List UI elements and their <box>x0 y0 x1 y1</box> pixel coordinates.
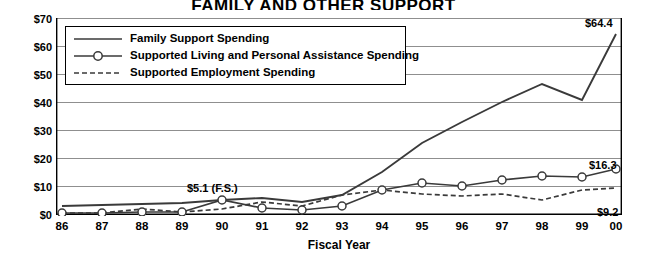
y-axis-tick-labels: $70 $60 $50 $40 $30 $20 $10 $0 <box>0 0 52 240</box>
y-tick-label: $60 <box>6 42 52 52</box>
y-tick-label: $20 <box>6 154 52 164</box>
x-tick-label: 88 <box>127 220 157 232</box>
line-with-circle-marker-icon <box>72 47 124 64</box>
solid-line-icon <box>72 30 124 47</box>
x-tick-label: 86 <box>47 220 77 232</box>
legend-label: Supported Living and Personal Assistance… <box>130 47 419 64</box>
x-tick-label: 93 <box>327 220 357 232</box>
x-tick-label: 89 <box>167 220 197 232</box>
x-tick-label: 98 <box>527 220 557 232</box>
chart-legend: Family Support Spending Supported Living… <box>65 26 406 85</box>
x-axis-title: Fiscal Year <box>56 238 622 252</box>
y-tick-label: $50 <box>6 70 52 80</box>
x-tick-label: 97 <box>487 220 517 232</box>
y-tick-label: $10 <box>6 182 52 192</box>
x-tick-label: 90 <box>207 220 237 232</box>
x-tick-label: 95 <box>407 220 437 232</box>
y-tick-label: $40 <box>6 98 52 108</box>
x-tick-label: 99 <box>567 220 597 232</box>
annotation-16-3: $16.3 <box>589 159 617 171</box>
y-tick-label: $30 <box>6 126 52 136</box>
legend-item-family-support: Family Support Spending <box>70 30 401 47</box>
chart-container: FAMILY AND OTHER SUPPORT $70 $60 $50 $40… <box>0 0 647 265</box>
legend-label: Family Support Spending <box>130 30 269 47</box>
x-tick-label: 00 <box>601 220 631 232</box>
x-tick-label: 96 <box>447 220 477 232</box>
legend-item-supported-employment: Supported Employment Spending <box>70 64 401 81</box>
x-tick-label: 94 <box>367 220 397 232</box>
annotation-fs-5-1: $5.1 (F.S.) <box>187 182 238 194</box>
legend-label: Supported Employment Spending <box>130 64 315 81</box>
dashed-line-icon <box>72 64 124 81</box>
legend-item-supported-living: Supported Living and Personal Assistance… <box>70 47 401 64</box>
y-tick-label: $0 <box>6 210 52 220</box>
x-tick-label: 92 <box>287 220 317 232</box>
x-tick-label: 87 <box>87 220 117 232</box>
x-tick-label: 91 <box>247 220 277 232</box>
annotation-64-4: $64.4 <box>585 17 613 29</box>
annotation-9-2: $9.2 <box>597 206 618 218</box>
x-axis-tick-labels: 86 87 88 89 90 91 92 93 94 95 96 97 98 9… <box>56 220 622 234</box>
y-tick-label: $70 <box>6 14 52 24</box>
series-supported-living-markers <box>58 165 620 216</box>
chart-title: FAMILY AND OTHER SUPPORT <box>0 0 647 10</box>
